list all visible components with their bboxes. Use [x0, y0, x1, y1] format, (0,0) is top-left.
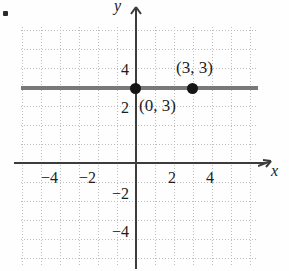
grid-line-horizontal [21, 258, 258, 259]
graph-grid [21, 27, 258, 265]
coordinate-plane-figure: x y 4 2 −2 −4 −4 −2 2 4 (0, 3) (3, 3) [0, 0, 289, 271]
grid-line-vertical [41, 27, 42, 265]
x-tick-label-4: 4 [206, 170, 214, 186]
y-tick-label-4: 4 [121, 62, 129, 78]
grid-line-vertical [155, 27, 156, 265]
grid-line-vertical [98, 27, 99, 265]
grid-line-horizontal [21, 49, 258, 50]
x-axis [14, 162, 266, 164]
y-tick-label-minus-2: −2 [112, 186, 129, 202]
data-point-3-3 [187, 83, 198, 94]
y-tick-label-minus-4: −4 [112, 224, 129, 240]
x-tick-label-2: 2 [168, 170, 176, 186]
x-tick-label-minus-4: −4 [41, 170, 58, 186]
grid-line-vertical [60, 27, 61, 265]
grid-line-horizontal [21, 125, 258, 126]
x-tick-label-minus-2: −2 [79, 170, 96, 186]
grid-line-vertical [79, 27, 80, 265]
y-axis [135, 14, 137, 269]
grid-line-horizontal [21, 220, 258, 221]
grid-line-horizontal [21, 30, 258, 31]
grid-line-vertical [250, 27, 251, 265]
y-axis-label: y [114, 0, 121, 14]
grid-line-horizontal [21, 68, 258, 69]
arrow-up-icon [129, 6, 143, 20]
x-axis-label: x [271, 163, 278, 179]
grid-line-vertical [22, 27, 23, 265]
y-tick-label-2: 2 [121, 100, 129, 116]
bullet-point-icon [3, 11, 8, 16]
grid-line-horizontal [21, 201, 258, 202]
grid-line-vertical [174, 27, 175, 265]
grid-line-horizontal [21, 239, 258, 240]
data-point-label-3-3: (3, 3) [176, 59, 213, 76]
grid-line-horizontal [21, 144, 258, 145]
data-point-label-0-3: (0, 3) [139, 97, 176, 114]
data-point-0-3 [130, 83, 141, 94]
arrow-right-icon [258, 155, 272, 169]
grid-line-vertical [231, 27, 232, 265]
